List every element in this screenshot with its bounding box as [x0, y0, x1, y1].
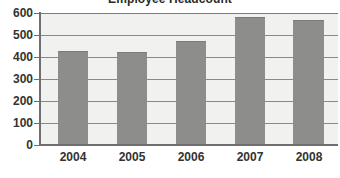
y-axis-tick-labels: 600 500 400 300 200 100 0 — [0, 0, 33, 178]
y-axis-tick-label: 500 — [0, 30, 33, 40]
bar-2007[interactable] — [235, 17, 265, 145]
x-axis-tick-label-2007: 2007 — [220, 150, 280, 164]
y-axis-tick-label: 600 — [0, 8, 33, 18]
y-axis-tick-label: 300 — [0, 74, 33, 84]
y-axis-tick-label: 0 — [0, 140, 33, 150]
x-axis-tick-label-2008: 2008 — [279, 150, 339, 164]
bar-2006[interactable] — [176, 41, 206, 145]
x-axis-tick-label-2005: 2005 — [102, 150, 162, 164]
y-axis-line — [39, 12, 41, 146]
chart-title: Employee Headcount — [0, 0, 340, 6]
bars-layer — [41, 13, 338, 145]
bar-2008[interactable] — [293, 20, 324, 145]
x-axis-tick-labels: 2004 2005 2006 2007 2008 — [41, 150, 338, 166]
y-axis-tick-label: 100 — [0, 118, 33, 128]
x-axis-tick-label-2004: 2004 — [43, 150, 103, 164]
bar-2005[interactable] — [117, 52, 147, 145]
x-axis-line — [39, 144, 338, 146]
x-axis-tick-label-2006: 2006 — [161, 150, 221, 164]
y-axis-tick-label: 200 — [0, 96, 33, 106]
bar-2004[interactable] — [58, 51, 88, 145]
y-axis-tick-label: 400 — [0, 52, 33, 62]
chart-screenshot: Employee Headcount 600 500 400 300 200 1… — [0, 0, 340, 178]
